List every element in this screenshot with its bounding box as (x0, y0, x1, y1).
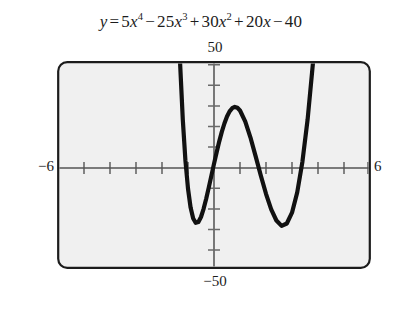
equation-lhs: y (100, 12, 108, 31)
equation-caption: y=5x4−25x3+30x2+20x−40 (0, 12, 402, 32)
plot-area (57, 61, 371, 269)
term-4-variable: x (263, 12, 271, 31)
term-3-coefficient: 30 (201, 12, 218, 31)
y-min-label: −50 (182, 273, 248, 290)
y-max-label: 50 (184, 39, 246, 56)
graph-figure: y=5x4−25x3+30x2+20x−40 50 −6 6 −50 (0, 0, 402, 312)
term-3-variable: x (219, 12, 227, 31)
term-1-variable: x (130, 12, 138, 31)
x-min-label: −6 (16, 158, 54, 175)
term-5-sign: − (271, 12, 285, 31)
term-1-coefficient: 5 (121, 12, 130, 31)
term-3-sign: + (188, 12, 202, 31)
x-max-label: 6 (374, 158, 398, 175)
term-4-coefficient: 20 (246, 12, 263, 31)
term-5-coefficient: 40 (285, 12, 302, 31)
term-4-sign: + (232, 12, 246, 31)
equation-relation: = (108, 12, 122, 31)
term-2-sign: − (143, 12, 157, 31)
term-2-coefficient: 25 (157, 12, 174, 31)
term-2-exponent: 3 (182, 11, 187, 22)
plot-svg (57, 61, 371, 269)
